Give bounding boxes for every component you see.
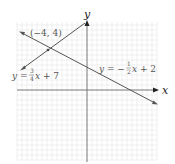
x-axis-arrow-icon [153,88,159,93]
svg-text:x + 2: x + 2 [132,64,156,74]
y-axis-label: y [83,8,91,21]
svg-text:x + 7: x + 7 [35,71,59,81]
line1-frac-den: 4 [30,75,34,82]
svg-text:y =: y = [11,71,28,81]
svg-text:y = −: y = − [98,64,125,74]
point-label: (−4, 4) [30,28,62,38]
line2-frac-num: 1 [127,60,131,67]
coordinate-graph: y x (−4, 4) y = 3 4 x + 7 y = − 1 2 x + … [0,0,175,164]
line2-frac-den: 2 [127,68,131,75]
line1-frac-num: 3 [30,67,34,74]
intersection-point [47,49,50,52]
x-axis-label: x [162,84,169,97]
